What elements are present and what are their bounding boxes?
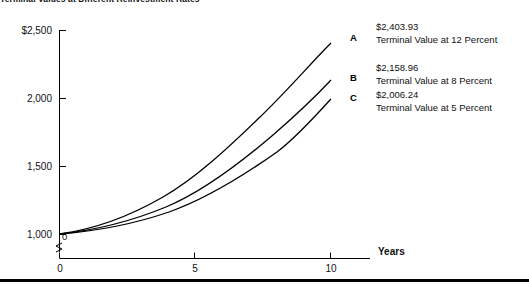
annotation-caption-8: Terminal Value at 8 Percent <box>376 75 492 88</box>
y-origin-label: 0 <box>62 231 67 242</box>
annotation-value-12: $2,403.93 <box>376 21 497 34</box>
annotation-caption-12: Terminal Value at 12 Percent <box>376 34 497 47</box>
x-tick-label-0: 0 <box>40 263 80 274</box>
curve-b-8-percent <box>60 80 331 234</box>
curve-label-a: A <box>350 32 357 43</box>
x-tick-label-5: 5 <box>175 263 215 274</box>
annotation-8-percent: $2,158.96 Terminal Value at 8 Percent <box>376 62 492 87</box>
annotation-caption-5: Terminal Value at 5 Percent <box>376 102 492 115</box>
annotation-value-8: $2,158.96 <box>376 62 492 75</box>
x-axis-title: Years <box>378 246 405 257</box>
footer-divider <box>0 279 529 282</box>
curve-a-12-percent <box>60 43 331 234</box>
x-tick-label-10: 10 <box>311 263 351 274</box>
y-tick-label-2000: 2,000 <box>0 93 52 104</box>
curve-label-c: C <box>350 92 357 103</box>
annotation-5-percent: $2,006.24 Terminal Value at 5 Percent <box>376 89 492 114</box>
annotation-value-5: $2,006.24 <box>376 89 492 102</box>
y-tick-label-2500: $2,500 <box>0 25 52 36</box>
chart-figure: Terminal Values at Different Reinvestmen… <box>0 0 529 297</box>
y-axis-break-icon <box>56 243 62 252</box>
annotation-12-percent: $2,403.93 Terminal Value at 12 Percent <box>376 21 497 46</box>
y-tick-label-1000: 1,000 <box>0 229 52 240</box>
y-tick-label-1500: 1,500 <box>0 161 52 172</box>
curve-label-b: B <box>350 72 357 83</box>
